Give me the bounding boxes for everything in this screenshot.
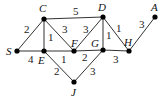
edge-C-D [44, 17, 103, 19]
edge-weight-G-H: 3 [113, 53, 119, 65]
node-D [100, 14, 105, 19]
edge-F-G [74, 50, 103, 51]
edge-weight-C-E: 1 [48, 31, 54, 43]
node-label-D: D [97, 1, 106, 13]
node-label-H: H [123, 36, 133, 48]
node-C [41, 16, 46, 21]
node-label-F: F [70, 37, 78, 49]
node-E [41, 48, 46, 53]
edge-weight-F-D: 3 [83, 23, 89, 35]
edge-weight-S-C: 2 [24, 23, 30, 35]
node-H [126, 48, 131, 53]
edge-weight-C-D: 5 [73, 5, 79, 17]
edge-weight-G-J: 3 [90, 65, 96, 77]
node-F [71, 48, 76, 53]
edge-weight-D-H: 1 [116, 22, 122, 34]
nodes: SCEFDGHAJ [6, 1, 158, 97]
edge-weight-C-F: 3 [62, 23, 68, 35]
edge-weight-E-J: 2 [54, 65, 60, 77]
edge-weight-D-G: 1 [106, 29, 112, 41]
node-label-J: J [71, 86, 77, 97]
node-label-C: C [39, 2, 47, 14]
edges: 24135132113323 [17, 5, 155, 82]
weighted-graph-diagram: 24135132113323 SCEFDGHAJ [0, 0, 163, 97]
node-label-A: A [150, 1, 158, 13]
edge-weight-E-F: 1 [61, 53, 67, 65]
node-label-G: G [91, 37, 99, 49]
node-label-E: E [37, 54, 45, 66]
node-J [71, 79, 76, 84]
node-S [14, 48, 19, 53]
edge-S-C [17, 19, 44, 51]
edge-G-J [74, 50, 103, 82]
node-label-S: S [6, 45, 12, 57]
edge-weight-H-A: 3 [139, 18, 145, 30]
node-A [152, 14, 157, 19]
edge-weight-S-E: 4 [28, 53, 34, 65]
node-G [100, 47, 105, 52]
edge-G-H [103, 50, 129, 51]
edge-weight-F-G: 2 [82, 51, 88, 63]
